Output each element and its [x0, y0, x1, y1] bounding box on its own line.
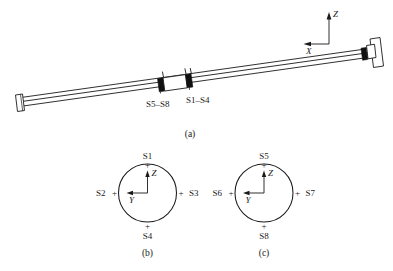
figure-root: Z X: [0, 0, 393, 271]
sensor-label-s5: S5: [259, 151, 269, 161]
caption-panel-c: (c): [259, 248, 270, 259]
sensor-marker-s5: +: [261, 160, 266, 170]
station-label-s1-s4: S1–S4: [186, 95, 210, 105]
sensor-label-s2: S2: [96, 188, 106, 198]
panel-a-group: Z X: [16, 9, 384, 140]
sensor-label-s3: S3: [189, 188, 199, 198]
collar-tick-right: [185, 68, 186, 74]
beam-right-end-flange: [361, 38, 384, 68]
sensor-marker-s2: +: [112, 188, 117, 198]
right-flange-hub: [367, 44, 377, 59]
caption-panel-a: (a): [185, 129, 196, 140]
sensor-marker-s3: +: [178, 188, 183, 198]
panel-a-axis-marker: Z X: [304, 9, 340, 56]
sensor-label-s4: S4: [143, 231, 153, 241]
sensor-label-s1: S1: [143, 151, 153, 161]
collar-tick-left: [162, 72, 163, 78]
beam-left-end-flange: [16, 94, 25, 112]
axis-z-arrowhead: [327, 12, 332, 20]
axis-x-label: X: [305, 46, 312, 56]
beam-edge-top: [21, 49, 369, 98]
sensor-marker-s8: +: [261, 221, 266, 231]
sensor-marker-s6: +: [228, 188, 233, 198]
axis-z-label: Z: [333, 9, 339, 19]
sensor-label-s8: S8: [259, 231, 269, 241]
instrumented-collar-assembly: [158, 68, 193, 92]
collar-tick-right-outer: [190, 68, 191, 74]
sensor-marker-s1: +: [145, 160, 150, 170]
sensor-marker-s7: +: [295, 188, 300, 198]
figure-canvas: Z X: [0, 0, 393, 271]
collar-body: [163, 75, 187, 91]
panel-c-group: Z Y + S5 + S6 + S7 + S8 (c): [212, 151, 315, 259]
sensor-label-s6: S6: [212, 188, 222, 198]
station-label-s5-s8: S5–S8: [146, 99, 170, 109]
left-flange-plate: [16, 94, 25, 112]
panel-b-group: Z Y + S1 + S2 + S3 + S4 (b): [96, 151, 199, 259]
caption-panel-b: (b): [142, 248, 153, 259]
sensor-label-s7: S7: [306, 188, 316, 198]
sensor-marker-s4: +: [145, 221, 150, 231]
